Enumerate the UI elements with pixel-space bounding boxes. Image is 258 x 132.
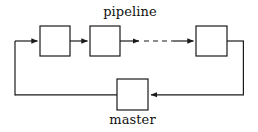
master-box[interactable] [117, 79, 148, 110]
master-label: master [0, 112, 258, 127]
pipeline-master-diagram: pipeline master [0, 0, 258, 132]
pipeline-stage-box-1[interactable] [40, 26, 70, 56]
node-group [40, 26, 227, 110]
pipeline-label: pipeline [0, 4, 258, 19]
pipeline-stage-box-n[interactable] [196, 26, 227, 56]
pipeline-stage-box-2[interactable] [90, 26, 120, 56]
